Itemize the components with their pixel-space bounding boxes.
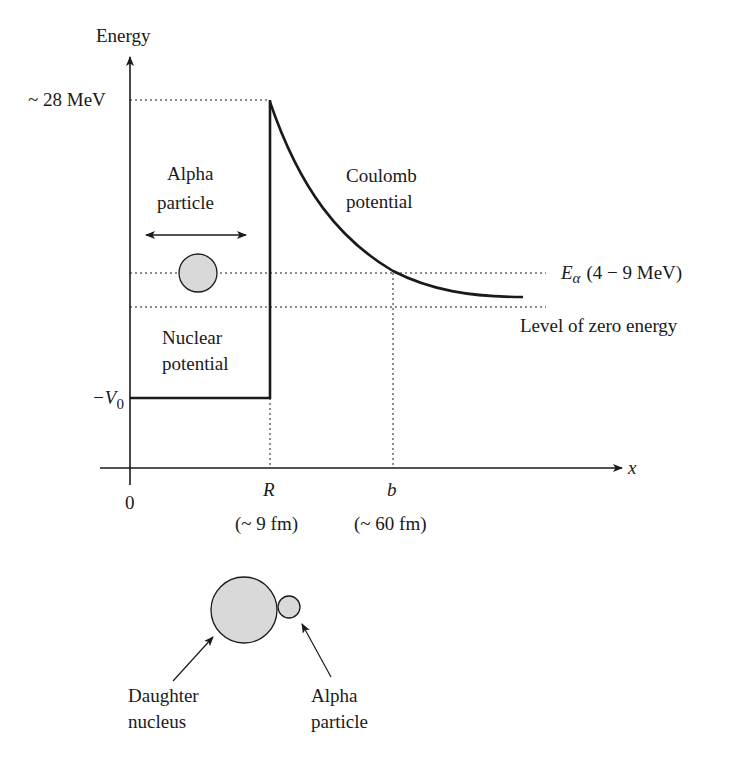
well-depth-label: −V0	[92, 387, 124, 412]
coulomb-label-line2: potential	[346, 191, 412, 212]
r-value-label: (~ 9 fm)	[235, 513, 298, 535]
alpha-energy-label: Eα(4 − 9 MeV)	[560, 262, 682, 286]
alpha-decay-potential-diagram: Energy x 0 ~ 28 MeV Eα(4 − 9 MeV) Level …	[0, 0, 745, 767]
origin-label: 0	[125, 492, 135, 513]
y-axis-label: Energy	[96, 25, 151, 46]
daughter-nucleus-label-line2: nucleus	[128, 711, 186, 732]
x-axis-label: x	[627, 457, 637, 478]
nuclear-label: Nuclear	[162, 327, 223, 348]
daughter-nucleus-label: Daughter	[128, 685, 199, 706]
alpha-pointer-arrow-icon	[302, 624, 331, 677]
daughter-nucleus-icon	[211, 577, 277, 643]
r-tick-label: R	[262, 479, 275, 500]
zero-energy-label: Level of zero energy	[520, 315, 678, 336]
b-value-label: (~ 60 fm)	[354, 513, 427, 535]
coulomb-label: Coulomb	[346, 165, 417, 186]
barrier-height-label: ~ 28 MeV	[28, 89, 106, 110]
alpha-particle-icon	[278, 596, 300, 618]
daughter-pointer-arrow-icon	[173, 637, 213, 681]
alpha-particle-label: Alpha	[311, 685, 358, 706]
alpha-in-well-label: Alpha	[167, 163, 214, 184]
b-tick-label: b	[387, 479, 397, 500]
nuclear-label-line2: potential	[162, 353, 228, 374]
alpha-in-well-label-line2: particle	[157, 192, 214, 213]
alpha-particle-in-well-icon	[179, 254, 217, 292]
alpha-particle-label-line2: particle	[311, 711, 368, 732]
